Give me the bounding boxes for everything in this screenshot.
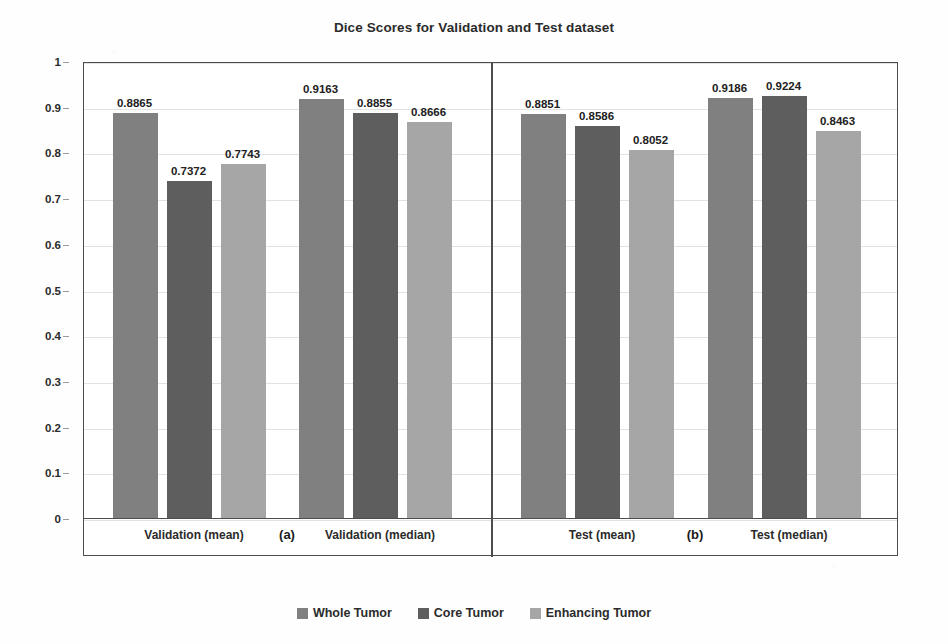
bar-value-label: 0.9163 — [303, 83, 338, 95]
y-axis-tick-label: 0 — [55, 513, 61, 525]
y-axis-tick-mark — [63, 428, 69, 429]
bar-value-label: 0.8851 — [525, 98, 560, 110]
bar-value-label: 0.8666 — [411, 106, 446, 118]
y-axis-tick-mark — [63, 291, 69, 292]
y-axis-tick-label: 0.8 — [45, 147, 61, 159]
y-axis-tick-mark — [63, 153, 69, 154]
legend-item[interactable]: Enhancing Tumor — [530, 606, 651, 620]
legend-item[interactable]: Whole Tumor — [297, 606, 392, 620]
y-axis-tick-mark — [63, 199, 69, 200]
chart-legend: Whole TumorCore TumorEnhancing Tumor — [0, 606, 948, 620]
bar-value-label: 0.8865 — [117, 97, 152, 109]
legend-item-label: Enhancing Tumor — [546, 606, 651, 620]
legend-swatch-icon — [418, 608, 429, 619]
y-axis-tick-mark — [63, 108, 69, 109]
y-axis-tick-mark — [63, 62, 69, 63]
y-axis-tick-mark — [63, 473, 69, 474]
bar-value-label: 0.8586 — [579, 110, 614, 122]
bar-value-label: 0.9186 — [712, 82, 747, 94]
y-axis-tick-label: 0.1 — [45, 467, 61, 479]
legend-item[interactable]: Core Tumor — [418, 606, 504, 620]
y-axis: 10.90.80.70.60.50.40.30.20.10 — [0, 62, 83, 519]
y-axis-tick-label: 0.5 — [45, 285, 61, 297]
chart-title: Dice Scores for Validation and Test data… — [0, 20, 948, 35]
legend-item-label: Core Tumor — [434, 606, 504, 620]
y-axis-tick-label: 0.4 — [45, 330, 61, 342]
bar-value-label: 0.8052 — [633, 134, 668, 146]
y-axis-tick-label: 0.6 — [45, 239, 61, 251]
y-axis-tick-mark — [63, 245, 69, 246]
bar-value-label: 0.8463 — [820, 115, 855, 127]
bar-value-label: 0.9224 — [766, 80, 801, 92]
bar-value-label: 0.7372 — [171, 165, 206, 177]
y-axis-tick-mark — [63, 336, 69, 337]
y-axis-tick-label: 1 — [55, 56, 61, 68]
chart-container: Dice Scores for Validation and Test data… — [0, 0, 948, 644]
bar-value-label: 0.8855 — [357, 97, 392, 109]
bar-value-labels-layer: 0.88650.73720.77430.91630.88550.86660.88… — [83, 62, 898, 556]
y-axis-tick-label: 0.7 — [45, 193, 61, 205]
y-axis-tick-mark — [63, 519, 69, 520]
y-axis-tick-mark — [63, 382, 69, 383]
bar-value-label: 0.7743 — [225, 148, 260, 160]
legend-swatch-icon — [297, 608, 308, 619]
y-axis-tick-label: 0.9 — [45, 102, 61, 114]
y-axis-tick-label: 0.2 — [45, 422, 61, 434]
legend-swatch-icon — [530, 608, 541, 619]
y-axis-tick-label: 0.3 — [45, 376, 61, 388]
legend-item-label: Whole Tumor — [313, 606, 392, 620]
